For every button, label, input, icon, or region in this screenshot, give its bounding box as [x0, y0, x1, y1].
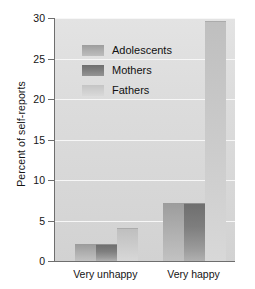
bar-mothers-group-2 [184, 203, 205, 261]
legend-swatch-adolescents [82, 45, 104, 56]
y-tick-mark [48, 180, 54, 181]
legend-label-adolescents: Adolescents [112, 44, 172, 56]
bar-fathers-group-1 [117, 228, 138, 261]
y-tick-mark [48, 221, 54, 222]
y-tick-mark [48, 261, 54, 262]
y-tick-mark [48, 59, 54, 60]
y-tick-label: 5 [5, 215, 45, 227]
x-category-label: Very happy [167, 268, 220, 280]
y-tick-mark [48, 18, 54, 19]
y-tick-label: 30 [5, 12, 45, 24]
bar-adolescents-group-1 [75, 244, 96, 261]
y-tick-label: 0 [5, 255, 45, 267]
y-tick-label: 25 [5, 53, 45, 65]
x-category-label: Very unhappy [73, 268, 137, 280]
bar-fathers-group-2 [205, 21, 226, 261]
y-tick-mark [48, 99, 54, 100]
legend-label-mothers: Mothers [112, 64, 152, 76]
legend-item-fathers: Fathers [82, 84, 172, 96]
chart-legend: Adolescents Mothers Fathers [82, 44, 172, 96]
bar-chart-figure: Percent of self-reports 051015202530 Ver… [0, 0, 255, 289]
y-tick-label: 15 [5, 134, 45, 146]
y-tick-label: 10 [5, 174, 45, 186]
bar-adolescents-group-2 [163, 203, 184, 261]
legend-swatch-mothers [82, 65, 104, 76]
gridline [55, 18, 235, 19]
legend-swatch-fathers [82, 85, 104, 96]
x-axis-line [53, 261, 235, 262]
legend-label-fathers: Fathers [112, 84, 149, 96]
legend-item-mothers: Mothers [82, 64, 172, 76]
bar-mothers-group-1 [96, 244, 117, 261]
y-tick-label: 20 [5, 93, 45, 105]
y-tick-mark [48, 140, 54, 141]
legend-item-adolescents: Adolescents [82, 44, 172, 56]
